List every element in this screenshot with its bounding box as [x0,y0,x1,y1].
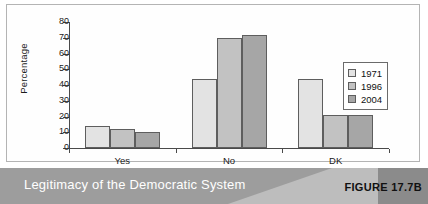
bars-layer [69,22,389,148]
y-axis-tick-label-wrap: 70 [13,33,69,42]
x-axis-tick [282,149,283,153]
legend-item-1971: 1971 [348,67,382,79]
bar-no-2004 [242,35,267,148]
y-axis-tick-label-wrap: 30 [13,96,69,105]
bar-dk-1996 [323,115,348,148]
y-axis-tick-label: 10 [25,127,69,136]
legend-label-1971: 1971 [361,69,382,78]
bar-yes-1971 [85,126,110,148]
legend-swatch-1996 [348,82,356,90]
x-axis-tick [69,149,70,153]
legend-swatch-2004 [348,95,356,103]
figure-container: Percentage 01020304050607080 YesNoDK 197… [0,0,428,204]
caption-bar: Legitimacy of the Democratic System FIGU… [0,168,428,204]
legend-item-1996: 1996 [348,80,382,92]
bar-dk-2004 [348,115,373,148]
legend-label-2004: 2004 [361,95,382,104]
y-axis-tick-label: 50 [25,64,69,73]
y-axis-tick-label: 40 [25,80,69,89]
y-axis-tick-label: 80 [25,17,69,26]
y-axis-tick-label-wrap: 50 [13,64,69,73]
y-axis-tick-label-wrap: 40 [13,80,69,89]
legend-item-2004: 2004 [348,93,382,105]
y-axis-tick-label: 0 [25,143,69,152]
figure-number-label: FIGURE 17.7B [344,181,422,193]
bar-yes-1996 [110,129,135,148]
x-axis-line [69,148,389,149]
y-axis-tick-label-wrap: 60 [13,49,69,58]
x-axis-tick [389,149,390,153]
x-axis-label-dk: DK [296,155,376,166]
legend-label-1996: 1996 [361,82,382,91]
y-axis-tick-label: 20 [25,112,69,121]
bar-yes-2004 [135,132,160,148]
bar-no-1996 [217,38,242,148]
legend-swatch-1971 [348,69,356,77]
bar-dk-1971 [298,79,323,148]
x-axis-tick [176,149,177,153]
y-axis-tick-label-wrap: 10 [13,127,69,136]
y-axis-tick-label: 30 [25,96,69,105]
chart-legend: 197119962004 [343,62,388,110]
y-axis-tick-label: 70 [25,33,69,42]
y-axis-tick-label-wrap: 0 [13,143,69,152]
y-axis-tick-label: 60 [25,49,69,58]
y-axis-tick-label-wrap: 80 [13,17,69,26]
bar-no-1971 [192,79,217,148]
chart-panel: Percentage 01020304050607080 YesNoDK 197… [6,4,420,162]
y-axis-tick-label-wrap: 20 [13,112,69,121]
x-axis-label-yes: Yes [82,155,162,166]
x-axis-label-no: No [189,155,269,166]
figure-caption: Legitimacy of the Democratic System [24,177,246,192]
